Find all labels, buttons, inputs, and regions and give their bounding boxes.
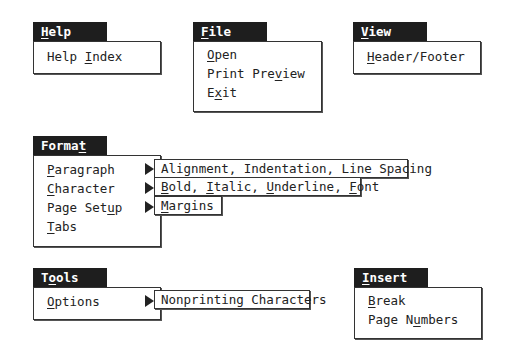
- mnemonic: H: [367, 49, 375, 64]
- menu-insert: Break Page Numbers: [354, 287, 482, 339]
- menu-item-header-footer[interactable]: Header/Footer: [367, 47, 465, 66]
- label: ptions: [55, 294, 100, 309]
- label: Page N: [368, 312, 413, 327]
- mnemonic: O: [47, 294, 55, 309]
- menu-title-file[interactable]: File: [193, 22, 267, 41]
- label: Forma: [41, 138, 79, 153]
- mnemonic: F: [201, 24, 209, 39]
- submenu-margins[interactable]: Margins: [154, 196, 222, 215]
- menu-tools: Options: [33, 287, 161, 320]
- label: Help: [47, 49, 85, 64]
- mnemonic: C: [47, 181, 55, 196]
- menu-item-help-index[interactable]: Help Index: [47, 47, 122, 66]
- label: old,: [169, 179, 207, 194]
- label: eader/Footer: [375, 49, 465, 64]
- label: nderline,: [274, 179, 349, 194]
- submenu-arrow-icon: [145, 201, 154, 213]
- label: reak: [376, 293, 406, 308]
- menu-title-tools[interactable]: Tools: [33, 268, 107, 287]
- mnemonic: M: [161, 198, 169, 213]
- mnemonic: B: [368, 293, 376, 308]
- menu-item-tabs[interactable]: Tabs: [47, 217, 77, 236]
- mnemonic: I: [362, 270, 370, 285]
- menu-item-page-numbers[interactable]: Page Numbers: [368, 310, 458, 329]
- mnemonic: I: [206, 179, 214, 194]
- menu-format: Paragraph Character Page Setup Tabs: [33, 155, 161, 247]
- mnemonic: u: [107, 200, 115, 215]
- mnemonic: U: [266, 179, 274, 194]
- menu-title-help[interactable]: Help: [33, 22, 107, 41]
- mnemonic: B: [161, 179, 169, 194]
- label: elp: [49, 24, 72, 39]
- menu-item-character[interactable]: Character: [47, 179, 115, 198]
- label: T: [41, 270, 49, 285]
- label: mbers: [421, 312, 459, 327]
- menu-file: Open Print Preview Exit: [193, 41, 322, 112]
- submenu-arrow-icon: [145, 163, 154, 175]
- submenu-arrow-icon: [145, 182, 154, 194]
- label: iew: [369, 24, 392, 39]
- label: it: [222, 85, 237, 100]
- label: p: [115, 200, 123, 215]
- mnemonic: P: [47, 162, 55, 177]
- menu-item-exit[interactable]: Exit: [207, 83, 237, 102]
- mnemonic: V: [361, 24, 369, 39]
- menu-item-options[interactable]: Options: [47, 292, 100, 311]
- label: ile: [209, 24, 232, 39]
- label: abs: [55, 219, 78, 234]
- menu-item-page-setup[interactable]: Page Setup: [47, 198, 122, 217]
- submenu-nonprinting-characters[interactable]: Nonprinting Characters: [154, 290, 310, 309]
- submenu-character[interactable]: Bold, Italic, Underline, Font: [154, 177, 361, 196]
- menu-help: Help Index: [33, 41, 161, 74]
- label: ols: [56, 270, 79, 285]
- label: Page Set: [47, 200, 107, 215]
- label: aragraph: [55, 162, 115, 177]
- label: iew: [282, 66, 305, 81]
- label: pen: [215, 47, 238, 62]
- submenu-arrow-icon: [145, 295, 154, 307]
- mnemonic: H: [41, 24, 49, 39]
- label: E: [207, 85, 215, 100]
- submenu-paragraph[interactable]: Alignment, Indentation, Line Spacing: [154, 159, 408, 178]
- menu-title-format[interactable]: Format: [33, 136, 107, 155]
- label: ont: [357, 179, 380, 194]
- label: talic,: [214, 179, 267, 194]
- mnemonic: T: [47, 219, 55, 234]
- mnemonic: o: [49, 270, 57, 285]
- menu-view: Header/Footer: [353, 41, 481, 74]
- menu-item-paragraph[interactable]: Paragraph: [47, 160, 115, 179]
- mnemonic: u: [413, 312, 421, 327]
- mnemonic: x: [215, 85, 223, 100]
- mnemonic: F: [349, 179, 357, 194]
- label: haracter: [55, 181, 115, 196]
- label: nsert: [370, 270, 408, 285]
- menu-title-insert[interactable]: Insert: [354, 268, 428, 287]
- mnemonic: t: [79, 138, 87, 153]
- label: ndex: [92, 49, 122, 64]
- menu-item-print-preview[interactable]: Print Preview: [207, 64, 305, 83]
- menu-item-open[interactable]: Open: [207, 45, 237, 64]
- mnemonic: O: [207, 47, 215, 62]
- menu-title-view[interactable]: View: [353, 22, 427, 41]
- label: argins: [169, 198, 214, 213]
- menu-item-break[interactable]: Break: [368, 291, 406, 310]
- label: Print Pre: [207, 66, 275, 81]
